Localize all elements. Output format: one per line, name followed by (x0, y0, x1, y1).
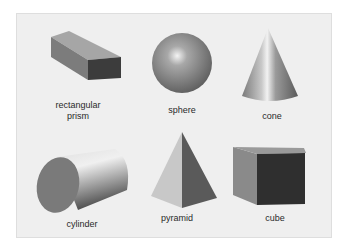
label-rectangular-prism-line1: rectangular (55, 100, 100, 111)
cylinder-icon (32, 149, 128, 217)
label-cone: cone (262, 111, 282, 122)
label-rectangular-prism: rectangular prism (55, 100, 100, 122)
cube-icon (233, 147, 306, 205)
sphere-icon (152, 33, 212, 93)
label-cylinder: cylinder (66, 219, 97, 230)
label-pyramid: pyramid (161, 213, 193, 224)
cone-icon (242, 28, 298, 101)
pyramid-icon (151, 132, 217, 208)
label-rectangular-prism-line2: prism (55, 111, 100, 122)
label-cube: cube (265, 213, 285, 224)
label-sphere: sphere (168, 105, 196, 116)
rectangular-prism-icon (51, 31, 121, 80)
